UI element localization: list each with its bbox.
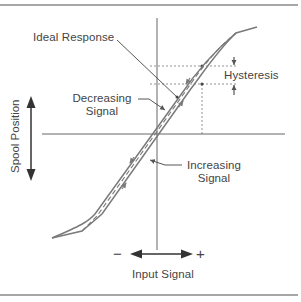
hysteresis-diagram [0, 0, 301, 302]
decreasing-leader [138, 99, 165, 110]
increasing-curve [52, 33, 236, 238]
diagram-frame: Ideal Response Decreasing Signal Increas… [0, 0, 301, 302]
decreasing-curve [52, 27, 257, 238]
hysteresis-label: Hysteresis [224, 69, 279, 82]
spool-position-label: Spool Position [9, 103, 21, 173]
increasing-leader [150, 160, 182, 165]
decreasing-signal-label: Decreasing Signal [70, 92, 134, 118]
input-signal-label: Input Signal [132, 268, 194, 281]
ideal-response-leader [117, 40, 178, 98]
ideal-response-line [82, 33, 236, 231]
positive-sign: + [196, 246, 205, 261]
negative-sign: − [113, 246, 122, 261]
increasing-signal-label: Increasing Signal [184, 159, 244, 185]
ideal-response-label: Ideal Response [33, 31, 114, 44]
